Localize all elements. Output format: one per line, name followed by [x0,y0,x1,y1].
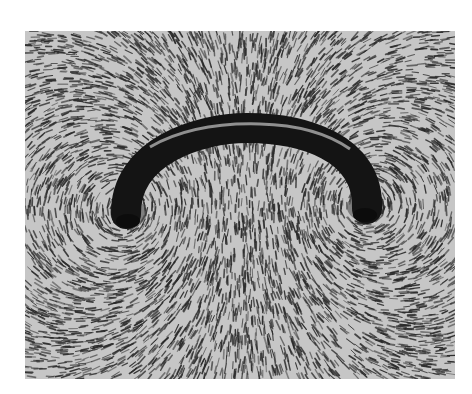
iron-filings-photo [25,31,455,379]
magnetic-field-image [25,31,455,379]
